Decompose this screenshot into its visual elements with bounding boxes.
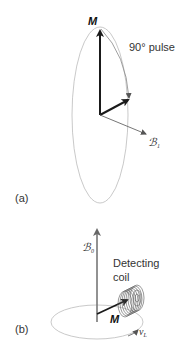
nu-subscript: L xyxy=(143,332,146,338)
b1-field-arrow xyxy=(100,115,146,134)
b1-subscript: 1 xyxy=(157,143,160,149)
panel-b-label: (b) xyxy=(15,324,28,335)
magnetization-label-b: M xyxy=(110,314,119,325)
b1-field-label: ℬ1 xyxy=(148,137,160,149)
larmor-frequency-label: νL xyxy=(139,327,147,338)
magnetization-label-a: M xyxy=(88,16,97,27)
panel-b xyxy=(51,230,144,339)
b0-field-label: ℬ0 xyxy=(82,242,94,254)
magnetization-arrow-rotated xyxy=(100,100,128,115)
b0-symbol: ℬ xyxy=(82,241,91,253)
panel-a-label: (a) xyxy=(15,193,28,204)
b0-subscript: 0 xyxy=(91,248,94,254)
pulse-rotation-arc xyxy=(101,29,129,98)
coil-label-line2: coil xyxy=(113,272,130,283)
coil-label-line1: Detecting xyxy=(113,258,159,269)
panel-a xyxy=(72,27,146,203)
b1-symbol: ℬ xyxy=(148,136,157,148)
pulse-label: 90° pulse xyxy=(129,42,175,53)
detecting-coil-icon xyxy=(118,285,144,317)
